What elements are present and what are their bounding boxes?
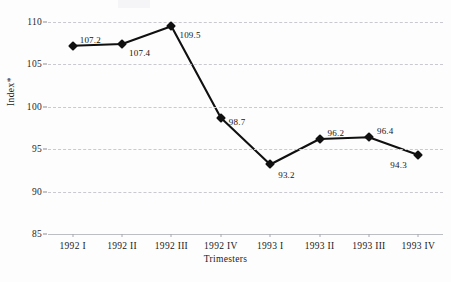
plot-area: 1101051009590851992 I1992 II1992 III1992… — [48, 22, 443, 234]
data-point-label: 96.4 — [377, 126, 394, 136]
x-tick-mark — [122, 234, 123, 237]
y-tick-mark — [43, 64, 47, 65]
y-tick-label: 85 — [32, 229, 42, 239]
x-tick-mark — [220, 234, 221, 237]
gridline — [48, 22, 443, 23]
x-tick-label: 1993 IV — [402, 241, 436, 251]
gridline — [48, 64, 443, 65]
x-tick-label: 1993 III — [352, 241, 385, 251]
x-tick-mark — [72, 234, 73, 237]
x-tick-mark — [418, 234, 419, 237]
y-tick-label: 90 — [32, 187, 42, 197]
y-axis-title: Index* — [6, 77, 16, 106]
chart-figure: Index* 1101051009590851992 I1992 II1992 … — [0, 0, 451, 282]
y-tick-mark — [43, 191, 47, 192]
data-point-label: 107.4 — [129, 48, 150, 58]
data-point-label: 94.3 — [390, 160, 407, 170]
x-axis-title: Trimesters — [0, 254, 451, 264]
axis-baseline — [48, 234, 443, 235]
x-tick-label: 1992 I — [60, 241, 86, 251]
y-tick-mark — [43, 234, 47, 235]
x-tick-mark — [171, 234, 172, 237]
y-tick-label: 100 — [27, 102, 42, 112]
x-tick-mark — [270, 234, 271, 237]
y-tick-mark — [43, 106, 47, 107]
y-tick-label: 105 — [27, 59, 42, 69]
data-point-label: 107.2 — [80, 35, 101, 45]
gridline — [48, 107, 443, 108]
y-tick-label: 110 — [27, 17, 42, 27]
x-tick-label: 1992 IV — [204, 241, 238, 251]
scan-artifact — [118, 0, 150, 8]
y-tick-label: 95 — [32, 144, 42, 154]
x-tick-mark — [368, 234, 369, 237]
data-point-label: 109.5 — [179, 30, 200, 40]
x-tick-label: 1992 III — [155, 241, 188, 251]
x-tick-mark — [319, 234, 320, 237]
gridline — [48, 192, 443, 193]
data-point-label: 93.2 — [278, 170, 295, 180]
x-tick-label: 1992 II — [107, 241, 137, 251]
data-point-label: 96.2 — [328, 128, 345, 138]
gridline — [48, 149, 443, 150]
y-tick-mark — [43, 149, 47, 150]
x-tick-label: 1993 II — [305, 241, 335, 251]
data-point-label: 98.7 — [229, 117, 246, 127]
x-tick-label: 1993 I — [257, 241, 283, 251]
y-tick-mark — [43, 22, 47, 23]
